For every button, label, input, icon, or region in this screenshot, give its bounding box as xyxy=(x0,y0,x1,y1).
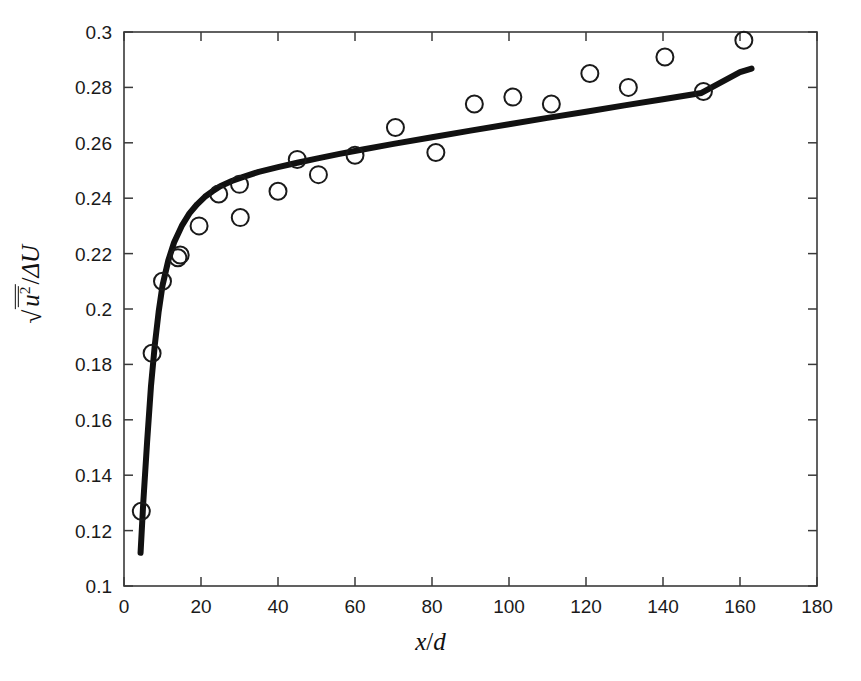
x-tick-label: 0 xyxy=(119,596,130,617)
y-tick-label: 0.28 xyxy=(75,77,112,98)
data-point-marker xyxy=(387,119,404,136)
radicand: u2 xyxy=(15,285,45,309)
y-tick-label: 0.22 xyxy=(75,244,112,265)
x-axis-title-numerator: x xyxy=(415,628,426,655)
plot-frame xyxy=(124,32,817,586)
x-tick-label: 180 xyxy=(801,596,833,617)
data-point-marker xyxy=(270,183,287,200)
y-axis-tick-labels: 0.10.120.140.160.180.20.220.240.260.280.… xyxy=(75,22,112,597)
x-tick-label: 160 xyxy=(724,596,756,617)
data-point-marker xyxy=(232,209,249,226)
radical-symbol: √ xyxy=(20,310,45,324)
data-point-marker xyxy=(191,217,208,234)
x-tick-label: 40 xyxy=(267,596,288,617)
y-axis-ticks xyxy=(124,32,817,586)
y-axis-title: √u2 /ΔU xyxy=(15,195,45,375)
figure-container: 020406080100120140160180 0.10.120.140.16… xyxy=(0,0,861,681)
data-point-marker xyxy=(427,144,444,161)
data-point-marker xyxy=(581,65,598,82)
y-tick-label: 0.14 xyxy=(75,465,112,486)
y-tick-label: 0.18 xyxy=(75,354,112,375)
data-point-marker xyxy=(543,96,560,113)
x-tick-label: 80 xyxy=(421,596,442,617)
x-tick-label: 100 xyxy=(493,596,525,617)
scatter-plot: 020406080100120140160180 0.10.120.140.16… xyxy=(0,0,861,681)
model-curve xyxy=(141,69,752,553)
y-tick-label: 0.3 xyxy=(86,22,112,43)
x-tick-label: 140 xyxy=(647,596,679,617)
y-tick-label: 0.1 xyxy=(86,576,112,597)
y-tick-label: 0.12 xyxy=(75,521,112,542)
data-point-marker xyxy=(466,96,483,113)
data-point-marker xyxy=(310,166,327,183)
y-tick-label: 0.2 xyxy=(86,299,112,320)
x-axis-ticks xyxy=(124,32,817,586)
sqrt-expression: √u2 xyxy=(15,285,45,326)
y-tick-label: 0.26 xyxy=(75,133,112,154)
data-point-marker xyxy=(504,89,521,106)
x-tick-label: 120 xyxy=(570,596,602,617)
y-tick-label: 0.16 xyxy=(75,410,112,431)
x-tick-label: 20 xyxy=(190,596,211,617)
x-tick-label: 60 xyxy=(344,596,365,617)
y-tick-label: 0.24 xyxy=(75,188,112,209)
data-point-markers xyxy=(133,32,753,520)
model-curve-path xyxy=(141,69,752,553)
x-axis-tick-labels: 020406080100120140160180 xyxy=(119,596,833,617)
radicand-base: u xyxy=(17,294,44,307)
data-point-marker xyxy=(735,32,752,49)
x-axis-title-denominator: d xyxy=(433,628,446,655)
y-axis-title-denominator: ΔU xyxy=(17,245,44,278)
x-axis-title: x/d xyxy=(0,628,861,656)
data-point-marker xyxy=(620,79,637,96)
overbar xyxy=(18,287,19,307)
data-point-marker xyxy=(656,48,673,65)
